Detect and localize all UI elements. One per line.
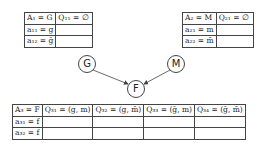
table-g-row-0-value: [56, 24, 93, 36]
table-f-header-1: Q₃₁ = (g, m): [42, 105, 93, 117]
table-m-header-1: Q₂₁ = ∅: [216, 13, 253, 25]
table-m-row-0-label: a₂₁ = m: [183, 24, 217, 36]
table-m-header-0: A₂ = M: [183, 13, 217, 25]
node-m: M: [167, 55, 185, 73]
node-f: F: [127, 80, 145, 98]
table-f-row-0-c2: [93, 116, 144, 128]
table-g-row-1-value: [56, 36, 93, 48]
table-f-row-0-c3: [144, 116, 195, 128]
edge-g-f: [93, 70, 128, 84]
table-f-header-4: Q₃₄ = (ḡ, m̄): [194, 105, 245, 117]
table-f-row-0-c1: [42, 116, 93, 128]
table-g-header-0: A₁ = G: [25, 13, 56, 25]
table-f-row-1-c4: [194, 128, 245, 140]
table-f-row-0-label: a₃₁ = f: [13, 116, 43, 128]
table-m-row-1-label: a₂₂ = m̄: [183, 36, 217, 48]
table-m-row-0-value: [216, 24, 253, 36]
table-f-header-3: Q₃₃ = (ḡ, m): [144, 105, 195, 117]
table-m: A₂ = M Q₂₁ = ∅ a₂₁ = m a₂₂ = m̄: [182, 12, 254, 48]
table-f-row-1-c1: [42, 128, 93, 140]
table-f-row-1-c3: [144, 128, 195, 140]
table-f-row-1-label: a₃₂ = f̄: [13, 128, 43, 140]
table-f: A₃ = F Q₃₁ = (g, m) Q₃₂ = (g, m̄) Q₃₃ = …: [12, 104, 246, 140]
table-m-row-1-value: [216, 36, 253, 48]
table-g-header-1: Q₁₁ = ∅: [56, 13, 93, 25]
node-g: G: [78, 55, 96, 73]
table-f-row-0-c4: [194, 116, 245, 128]
table-g-row-1-label: a₁₂ = ḡ: [25, 36, 56, 48]
table-g-row-0-label: a₁₁ = g: [25, 24, 56, 36]
edge-m-f: [144, 70, 170, 84]
table-g: A₁ = G Q₁₁ = ∅ a₁₁ = g a₁₂ = ḡ: [24, 12, 93, 48]
table-f-row-1-c2: [93, 128, 144, 140]
table-f-header-0: A₃ = F: [13, 105, 43, 117]
table-f-header-2: Q₃₂ = (g, m̄): [93, 105, 144, 117]
